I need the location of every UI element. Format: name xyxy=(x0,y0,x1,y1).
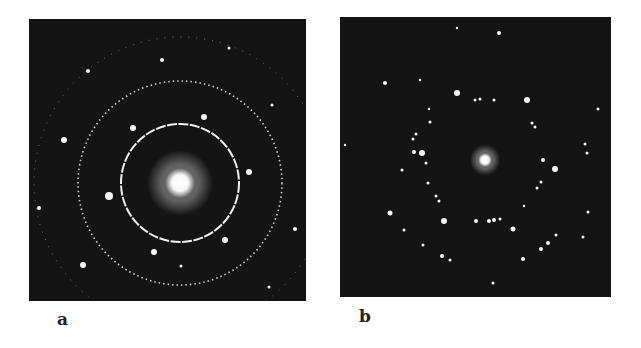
diffraction-panel-a xyxy=(29,19,306,301)
diffraction-spot xyxy=(474,219,478,223)
diffraction-spot xyxy=(492,282,495,285)
diffraction-spot xyxy=(344,144,346,146)
diffraction-spot xyxy=(427,182,430,185)
diffraction-spot xyxy=(228,47,231,50)
panel-label-b: b xyxy=(359,306,371,326)
diffraction-spot xyxy=(160,58,164,62)
central-beam-spot xyxy=(165,168,195,198)
diffraction-spot xyxy=(586,152,589,155)
diffraction-spot xyxy=(246,169,252,175)
diffraction-spot xyxy=(449,259,452,262)
diffraction-spot xyxy=(541,158,545,162)
diffraction-spot xyxy=(499,218,502,221)
diffraction-spot xyxy=(415,133,418,136)
diffraction-spot xyxy=(419,150,425,156)
diffraction-spot xyxy=(425,162,428,165)
central-beam-spot xyxy=(478,153,492,167)
panel-label-a: a xyxy=(57,309,68,329)
diffraction-spot xyxy=(534,126,537,129)
diffraction-spot xyxy=(412,138,415,141)
diffraction-spot xyxy=(401,169,404,172)
diffraction-spot xyxy=(493,99,496,102)
diffraction-spot xyxy=(412,150,416,154)
diffraction-spot xyxy=(422,244,425,247)
diffraction-spot xyxy=(511,227,516,232)
diffraction-spot xyxy=(151,249,157,255)
diffraction-spot xyxy=(521,257,525,261)
diffraction-spot xyxy=(438,200,441,203)
diffraction-spot xyxy=(523,205,525,207)
diffraction-spot xyxy=(487,219,491,223)
diffraction-spot xyxy=(597,108,600,111)
diffraction-spot xyxy=(429,121,432,124)
diffraction-spot xyxy=(403,229,406,232)
diffraction-spot xyxy=(440,254,444,258)
diffraction-pattern-a xyxy=(29,19,306,301)
diffraction-spot xyxy=(86,69,90,73)
diffraction-spot xyxy=(419,79,421,81)
diffraction-spot xyxy=(130,125,136,131)
diffraction-spot xyxy=(80,262,86,268)
diffraction-panel-b xyxy=(340,17,611,297)
diffraction-spot xyxy=(582,236,585,239)
diffraction-spot xyxy=(37,206,41,210)
diffraction-spot xyxy=(201,114,207,120)
diffraction-spot xyxy=(540,181,543,184)
diffraction-spot xyxy=(222,237,228,243)
diffraction-spot xyxy=(524,97,530,103)
diffraction-spot xyxy=(435,195,438,198)
diffraction-spot xyxy=(587,211,590,214)
diffraction-spot xyxy=(539,247,543,251)
diffraction-spot xyxy=(271,104,274,107)
diffraction-spot xyxy=(492,218,496,222)
diffraction-spot xyxy=(441,218,447,224)
diffraction-spot xyxy=(388,211,393,216)
diffraction-spot xyxy=(531,122,534,125)
diffraction-spot xyxy=(428,108,430,110)
diffraction-spot xyxy=(61,137,67,143)
diffraction-pattern-b xyxy=(340,17,611,297)
diffraction-spot xyxy=(454,90,460,96)
diffraction-spot xyxy=(180,265,183,268)
diffraction-spot xyxy=(474,99,477,102)
diffraction-spot xyxy=(383,81,387,85)
diffraction-spot xyxy=(479,98,482,101)
diffraction-spot xyxy=(555,234,558,237)
diffraction-spot xyxy=(552,166,558,172)
diffraction-spot xyxy=(536,187,539,190)
diffraction-spot xyxy=(293,227,297,231)
diffraction-spot xyxy=(268,286,271,289)
diffraction-spot xyxy=(584,143,587,146)
diffraction-spot xyxy=(546,241,550,245)
diffraction-spot xyxy=(497,31,501,35)
diffraction-spot xyxy=(456,27,458,29)
diffraction-spot xyxy=(105,192,113,200)
